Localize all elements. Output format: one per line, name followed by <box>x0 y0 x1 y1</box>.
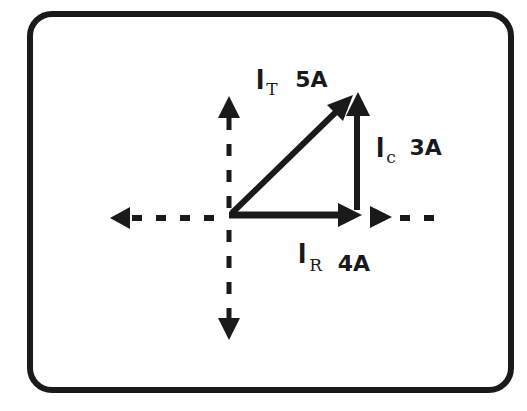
label-it-subscript: T <box>266 79 277 99</box>
label-ir: IR 4A <box>298 238 370 268</box>
label-ic-value: 3A <box>409 135 441 160</box>
label-ir-value: 4A <box>338 251 370 276</box>
label-ir-symbol: I <box>298 236 306 269</box>
label-ic-symbol: I <box>376 130 384 163</box>
label-ic-subscript: c <box>386 147 396 167</box>
label-it: IT 5A <box>256 64 328 94</box>
label-ir-subscript: R <box>309 255 322 275</box>
label-ic: Ic 3A <box>376 132 442 162</box>
label-it-symbol: I <box>256 62 264 95</box>
label-it-value: 5A <box>295 67 327 92</box>
